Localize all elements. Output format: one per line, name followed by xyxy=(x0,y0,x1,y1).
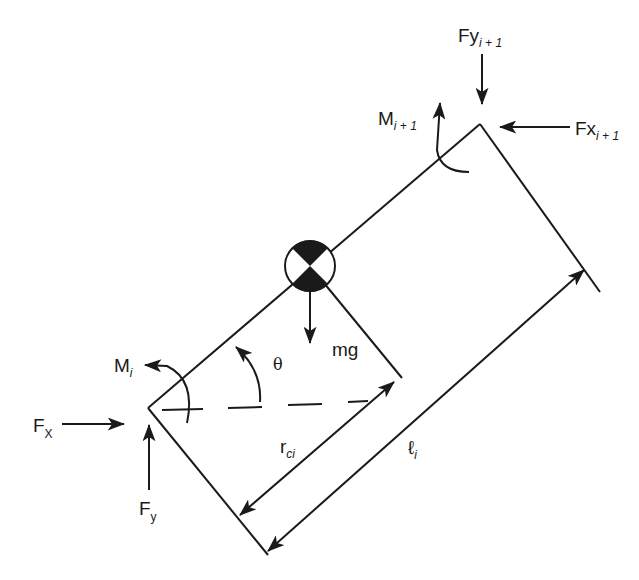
m-next-label: Mi + 1 xyxy=(378,108,417,133)
free-body-diagram: mg θ rci ℓi FX Fy Mi Fyi + 1 Fxi + 1 xyxy=(0,0,639,580)
fx-label: FX xyxy=(33,415,53,441)
angle-theta-arc xyxy=(236,347,260,402)
center-of-mass-icon xyxy=(285,240,335,291)
r-ci-label: rci xyxy=(280,436,295,461)
l-i-dimension xyxy=(268,270,584,551)
l-i-label: ℓi xyxy=(408,437,417,462)
m-i-label: Mi xyxy=(114,355,133,380)
fx-next-label: Fxi + 1 xyxy=(575,118,619,143)
fy-next-label: Fyi + 1 xyxy=(458,25,502,50)
r-ci-dimension xyxy=(240,382,394,515)
moment-mi-arc xyxy=(145,365,189,423)
horizontal-reference-dashed-line xyxy=(162,401,368,410)
link-body xyxy=(148,124,600,555)
fy-label: Fy xyxy=(139,498,157,524)
theta-label: θ xyxy=(273,355,283,374)
mg-label: mg xyxy=(332,339,358,360)
